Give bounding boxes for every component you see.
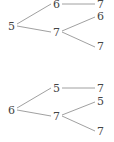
edge (17, 110, 51, 116)
leaf-node: 7 (97, 125, 104, 138)
root-node: 5 (8, 20, 15, 33)
edge (62, 32, 95, 47)
edge (17, 26, 51, 32)
edge (17, 4, 51, 24)
edge (62, 102, 95, 115)
branch-node: 5 (53, 82, 60, 95)
tree-2: 6 5 7 7 5 7 (8, 82, 104, 138)
leaf-node: 7 (97, 82, 104, 95)
branch-node: 6 (53, 0, 60, 11)
root-node: 6 (8, 104, 15, 117)
leaf-node: 6 (97, 10, 104, 23)
branch-node: 7 (53, 26, 60, 39)
edge (62, 17, 95, 31)
tree-1: 5 6 7 7 6 7 (8, 0, 104, 53)
leaf-node: 7 (97, 40, 104, 53)
leaf-node: 5 (97, 95, 104, 108)
branch-node: 7 (53, 110, 60, 123)
edge (62, 116, 95, 131)
edge (17, 88, 51, 108)
tree-diagrams: 5 6 7 7 6 7 6 5 7 7 5 7 (0, 0, 114, 142)
